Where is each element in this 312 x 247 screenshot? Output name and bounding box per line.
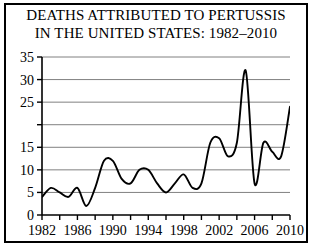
x-tick-label-2006: 2006 [241,223,269,238]
y-tick-label-15: 15 [20,140,34,155]
x-tick-label-1998: 1998 [170,223,198,238]
x-tick-label-2010: 2010 [276,223,304,238]
y-tick-label-10: 10 [20,163,34,178]
line-chart: 0510152530351982198619901994199820022006… [0,0,312,247]
y-tick-label-30: 30 [20,73,34,88]
x-tick-label-1982: 1982 [28,223,56,238]
y-tick-label-25: 25 [20,95,34,110]
x-tick-label-1986: 1986 [63,223,91,238]
plot-area: 0510152530351982198619901994199820022006… [0,0,312,247]
x-tick-label-1994: 1994 [134,223,162,238]
y-tick-label-0: 0 [27,208,34,223]
data-series-line [42,70,290,206]
x-tick-label-2002: 2002 [205,223,233,238]
pertussis-deaths-figure: DEATHS ATTRIBUTED TO PERTUSSIS IN THE UN… [0,0,312,247]
y-tick-label-35: 35 [20,50,34,65]
x-tick-label-1990: 1990 [99,223,127,238]
y-tick-label-5: 5 [27,185,34,200]
